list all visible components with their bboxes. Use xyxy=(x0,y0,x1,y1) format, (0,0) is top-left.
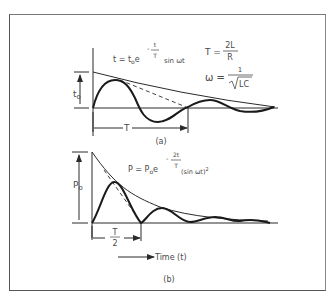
panel-a-period-label: T xyxy=(123,123,130,133)
panel-b-equation: P = Poe - 2t T (sin ωt)2 xyxy=(128,151,209,176)
svg-text:t = toe: t = toe xyxy=(113,55,140,65)
svg-text:ω =: ω = xyxy=(205,72,225,83)
panel-a-equation: t = toe - t T sin ωt xyxy=(113,41,185,65)
panel-a-tangent-dashed xyxy=(120,80,186,107)
panel-a-equation-period: T = 2L R xyxy=(204,41,238,62)
panel-b-amplitude-label: Po xyxy=(73,180,83,192)
svg-text:1: 1 xyxy=(238,66,242,74)
svg-text:-: - xyxy=(166,155,169,163)
panel-b-half-period-num: T xyxy=(112,228,118,237)
svg-text:T: T xyxy=(152,52,157,59)
svg-text:LC: LC xyxy=(239,80,249,89)
panel-b-caption: (b) xyxy=(163,275,174,284)
svg-text:P = Poe: P = Poe xyxy=(128,165,158,175)
damped-oscillation-figure: to T (a) t = toe - t T sin ωt T = 2L R ω… xyxy=(0,0,335,298)
svg-text:sin ωt: sin ωt xyxy=(164,57,185,65)
svg-text:t: t xyxy=(154,41,157,48)
panel-b-power-curve xyxy=(92,182,270,223)
svg-text:-: - xyxy=(147,45,150,53)
svg-text:T: T xyxy=(173,162,178,169)
svg-text:(sin ωt)2: (sin ωt)2 xyxy=(181,166,209,176)
svg-text:T =: T = xyxy=(204,47,221,57)
panel-a-caption: (a) xyxy=(155,137,166,146)
panel-a: to T (a) t = toe - t T sin ωt T = 2L R ω… xyxy=(73,41,278,146)
panel-b-envelope xyxy=(92,152,268,221)
time-axis-label: Time (t) xyxy=(154,253,187,262)
panel-b: Po T 2 Time (t) (b) P = Poe - 2t T (sin … xyxy=(72,151,278,284)
svg-text:2t: 2t xyxy=(173,151,180,158)
svg-text:R: R xyxy=(227,53,233,62)
svg-text:2L: 2L xyxy=(225,41,235,50)
panel-a-equation-omega: ω = 1 LC xyxy=(205,66,253,89)
panel-b-half-period-den: 2 xyxy=(112,239,117,248)
